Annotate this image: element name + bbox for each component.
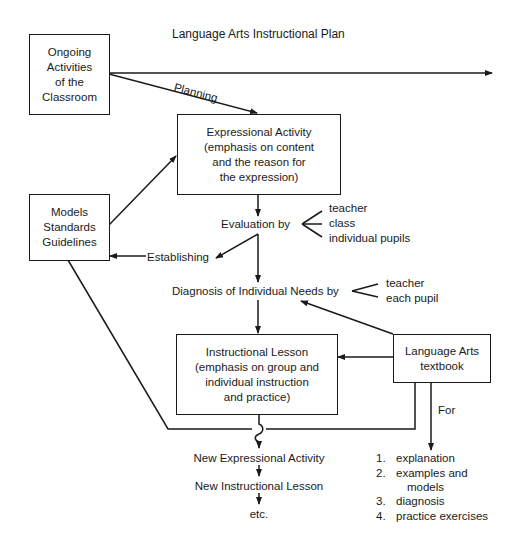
list-num: 1.: [376, 451, 386, 465]
models-to-expressional-arrow: [109, 156, 176, 225]
diagnosis-by-item: teacher: [386, 276, 424, 290]
box-text: Standards: [43, 220, 95, 235]
box-models-standards: Models Standards Guidelines: [29, 194, 110, 261]
evaluation-by-item: teacher: [329, 201, 367, 215]
textbook-to-diagnosis-arrow: [301, 301, 393, 334]
evaluation-by-item: class: [329, 216, 355, 230]
evaluation-by-item: individual pupils: [329, 231, 410, 245]
box-text: and practice): [224, 390, 290, 405]
box-text: Instructional Lesson: [206, 345, 308, 360]
box-text: textbook: [420, 359, 463, 374]
box-instructional-lesson: Instructional Lesson (emphasis on group …: [176, 334, 338, 415]
list-item: diagnosis: [396, 494, 445, 508]
box-text: Classroom: [42, 90, 97, 105]
list-item: explanation: [396, 451, 455, 465]
diagram-title: Language Arts Instructional Plan: [172, 27, 345, 41]
establishing-label: Establishing: [147, 250, 209, 264]
box-text: Guidelines: [42, 235, 96, 250]
sequence-item: New Expressional Activity: [159, 451, 359, 465]
diagnosis-by-item: each pupil: [386, 291, 438, 305]
box-text: Activities: [47, 60, 92, 75]
box-text: (emphasis on group and: [195, 360, 319, 375]
box-text: Ongoing: [48, 45, 91, 60]
box-text: the expression): [220, 170, 299, 185]
for-label: For: [438, 403, 455, 417]
list-item: practice exercises: [396, 509, 488, 523]
box-text: Expressional Activity: [207, 125, 312, 140]
box-text: of the: [55, 75, 84, 90]
evaluation-label: Evaluation by: [221, 217, 290, 231]
list-num: 2.: [376, 466, 386, 480]
box-text: Language Arts: [405, 344, 479, 359]
sequence-item: etc.: [159, 507, 359, 521]
list-item: models: [407, 480, 444, 494]
box-text: Models: [51, 205, 88, 220]
evaluation-to-establishing-arrow: [216, 234, 258, 258]
sequence-item: New Instructional Lesson: [159, 479, 359, 493]
diagnosis-label: Diagnosis of Individual Needs by: [172, 284, 339, 298]
list-num: 4.: [376, 509, 386, 523]
box-text: (emphasis on content: [204, 140, 314, 155]
list-item: examples and: [396, 466, 468, 480]
box-language-arts-textbook: Language Arts textbook: [393, 334, 491, 383]
instructional-to-new-expressional-arrow: [255, 414, 263, 448]
list-num: 3.: [376, 494, 386, 508]
box-text: and the reason for: [212, 155, 305, 170]
box-text: individual instruction: [205, 375, 309, 390]
box-ongoing-activities: Ongoing Activities of the Classroom: [29, 34, 110, 115]
box-expressional-activity: Expressional Activity (emphasis on conte…: [177, 114, 341, 195]
